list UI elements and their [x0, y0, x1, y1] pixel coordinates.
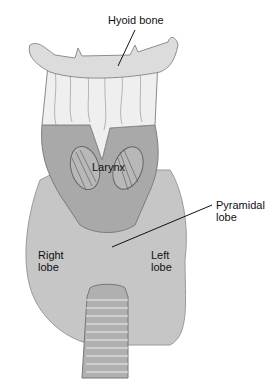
thyroid-diagram: Hyoid bone Larynx Pyramidal lobe Right l… [0, 0, 277, 391]
label-larynx: Larynx [92, 161, 125, 173]
trachea [82, 284, 128, 378]
label-hyoid-bone: Hyoid bone [108, 14, 164, 26]
label-left-lobe: Left lobe [151, 249, 172, 273]
thyroid-illustration [0, 0, 277, 391]
hyoid-bone [29, 37, 178, 78]
label-right-lobe: Right lobe [38, 249, 64, 273]
label-pyramidal-lobe: Pyramidal lobe [216, 199, 265, 223]
